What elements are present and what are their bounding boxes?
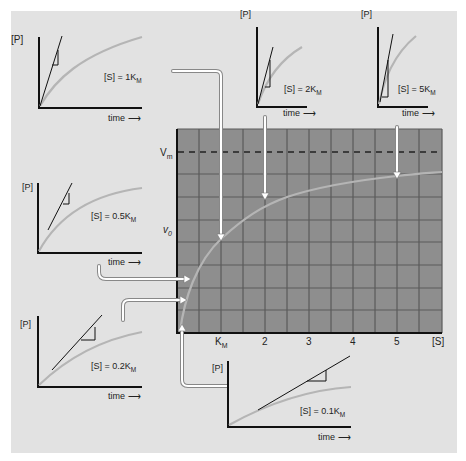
initial-slope-line (258, 356, 350, 410)
panel-y-label: [P] (22, 182, 33, 192)
x-tick-4: 4 (350, 336, 356, 347)
panel-s-0-1km: [P] [S] = 0.1KM time ⟶ (212, 356, 351, 442)
x-tick-km: KM (215, 336, 228, 349)
panel-y-label: [P] (20, 319, 31, 329)
panel-axes (257, 27, 307, 107)
panel-s-0-5km: [P] [S] = 0.5KM time ⟶ (22, 182, 142, 267)
x-axis-label-s: [S] (432, 336, 444, 347)
panel-conc-label: [S] = 5KM (398, 84, 436, 96)
x-tick-5: 5 (394, 336, 400, 347)
panel-s-2km: [P] [S] = 2KM time ⟶ (240, 9, 322, 118)
panel-s-1km: [P] [S] = 1KM time ⟶ (11, 34, 142, 123)
panel-conc-label: [S] = 0.2KM (91, 361, 136, 373)
michaelis-menten-diagram: Vm v0 KM 2 3 4 5 [S] (0, 0, 466, 461)
panel-x-label: time ⟶ (108, 257, 141, 267)
panel-s-5km: [P] [S] = 5KM time ⟶ (361, 9, 436, 118)
panel-conc-label: [S] = 0.5KM (91, 211, 136, 223)
panel-y-label: [P] (11, 34, 23, 45)
panel-x-label: time ⟶ (318, 432, 351, 442)
panel-x-label: time ⟶ (402, 108, 435, 118)
panel-conc-label: [S] = 2KM (284, 84, 322, 96)
panel-curve (258, 47, 302, 104)
panel-conc-label: [S] = 0.1KM (300, 406, 345, 418)
v0-label: v0 (163, 224, 172, 237)
panel-axes (378, 27, 428, 107)
x-tick-2: 2 (262, 336, 268, 347)
main-plot: Vm v0 KM 2 3 4 5 [S] (160, 129, 444, 349)
slope-triangle (81, 327, 95, 340)
vmax-label: Vm (160, 147, 173, 160)
panel-y-label: [P] (361, 9, 372, 19)
x-tick-3: 3 (306, 336, 312, 347)
panel-y-label: [P] (212, 363, 223, 373)
panel-axes (38, 316, 142, 387)
panel-conc-label: [S] = 1KM (104, 72, 142, 84)
panel-s-0-2km: [P] [S] = 0.2KM time ⟶ (20, 315, 142, 401)
panel-x-label: time ⟶ (108, 391, 141, 401)
initial-slope-line (40, 36, 62, 106)
panel-y-label: [P] (240, 9, 251, 19)
panel-x-label: time ⟶ (283, 108, 316, 118)
panel-x-label: time ⟶ (108, 113, 141, 123)
